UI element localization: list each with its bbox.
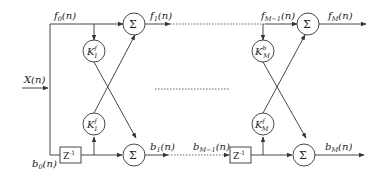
b1-label: b1(n) <box>150 141 175 154</box>
stage1-lower-sum-symbol: Σ <box>129 149 137 162</box>
stageM-upper-sum-symbol: Σ <box>303 18 311 31</box>
stage1-upper-sum-symbol: Σ <box>129 18 137 31</box>
lattice-filter-diagram: X(n) f0(n) Kf1 Kf1 Z-1 b0(n) Σ Σ f1(n) b… <box>0 0 379 175</box>
fM-label: fM(n) <box>327 10 353 23</box>
f0-label: f0(n) <box>53 10 76 23</box>
stageM-lower-sum-symbol: Σ <box>299 149 307 162</box>
f1-label: f1(n) <box>149 10 172 23</box>
fM1-label: fM−1(n) <box>260 10 295 23</box>
input-label: X(n) <box>23 74 45 85</box>
bM-label: bM(n) <box>325 141 352 154</box>
b0-label: b0(n) <box>32 158 57 171</box>
bM1-label: bM−1(n) <box>193 141 230 154</box>
